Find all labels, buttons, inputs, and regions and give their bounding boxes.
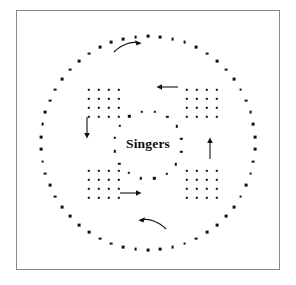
arrow-bottom-curved-left-icon xyxy=(134,216,168,234)
ring-dot xyxy=(249,172,252,175)
ring-dot xyxy=(88,231,91,234)
inner-ring-dot xyxy=(166,116,168,118)
inner-ring-dot xyxy=(180,138,182,140)
inner-ring-dot xyxy=(114,137,116,139)
ring-dot xyxy=(78,60,81,63)
ring-dot xyxy=(245,184,248,187)
block-dot xyxy=(196,89,198,91)
inner-ring-dot xyxy=(154,111,156,113)
inner-ring-dot xyxy=(175,125,177,127)
block-dot xyxy=(108,116,110,118)
inner-ring-dot xyxy=(175,163,177,165)
block-dot xyxy=(108,98,110,100)
block-dot xyxy=(196,98,198,100)
block-dot xyxy=(186,197,188,199)
ring-dot xyxy=(183,242,186,245)
inner-ring-dot xyxy=(141,110,143,112)
block-dot xyxy=(108,179,110,181)
block-dot xyxy=(98,170,100,172)
inner-ring-dot xyxy=(118,162,120,164)
ring-dot xyxy=(249,111,252,114)
block-dot xyxy=(186,170,188,172)
ring-dot xyxy=(44,111,47,114)
ring-dot xyxy=(232,205,235,208)
block-dot xyxy=(118,179,120,181)
ring-dot xyxy=(205,52,208,55)
block-dot xyxy=(186,188,188,190)
arrow-lower-left-right-icon xyxy=(119,188,143,198)
block-dot xyxy=(206,197,208,199)
block-dot xyxy=(98,89,100,91)
block-dot xyxy=(196,170,198,172)
block-dot xyxy=(88,197,90,199)
ring-dot xyxy=(239,195,242,198)
block-dot xyxy=(216,98,218,100)
block-dot xyxy=(118,98,120,100)
block-dot xyxy=(118,170,120,172)
ring-dot xyxy=(48,184,51,187)
block-dot xyxy=(88,89,90,91)
block-dot xyxy=(108,197,110,199)
figure-canvas: Singers xyxy=(0,0,296,285)
ring-dot xyxy=(88,52,91,55)
ring-dot xyxy=(54,195,57,198)
ring-dot xyxy=(253,148,256,151)
inner-ring-dot xyxy=(128,172,130,174)
ring-dot xyxy=(252,160,255,163)
block-dot xyxy=(98,107,100,109)
block-dot xyxy=(88,188,90,190)
ring-dot xyxy=(171,246,174,249)
ring-dot xyxy=(224,215,227,218)
block-dot xyxy=(108,188,110,190)
ring-dot xyxy=(69,215,72,218)
block-dot xyxy=(196,116,198,118)
ring-dot xyxy=(245,99,248,102)
arrow-left-down-icon xyxy=(82,116,92,140)
ring-dot xyxy=(69,68,72,71)
ring-dot xyxy=(232,78,235,81)
block-dot xyxy=(186,107,188,109)
block-dot xyxy=(216,170,218,172)
block-dot xyxy=(186,98,188,100)
block-dot xyxy=(108,170,110,172)
block-dot xyxy=(216,107,218,109)
block-dot xyxy=(186,89,188,91)
ring-dot xyxy=(215,224,218,227)
block-dot xyxy=(206,170,208,172)
inner-ring-dot xyxy=(180,151,182,153)
ring-dot xyxy=(195,237,198,240)
block-dot xyxy=(206,179,208,181)
block-dot xyxy=(206,89,208,91)
block-dot xyxy=(98,188,100,190)
ring-dot xyxy=(99,46,102,49)
ring-dot xyxy=(159,248,162,251)
ring-dot xyxy=(44,172,47,175)
ring-dot xyxy=(99,237,102,240)
arrow-right-up-icon xyxy=(205,136,215,160)
ring-dot xyxy=(171,37,174,40)
inner-ring-dot xyxy=(119,125,121,127)
ring-dot xyxy=(40,135,43,138)
ring-dot xyxy=(122,246,125,249)
ring-dot xyxy=(48,99,51,102)
arrow-top-curved-right-icon xyxy=(112,38,146,56)
block-dot xyxy=(88,98,90,100)
ring-dot xyxy=(78,224,81,227)
block-dot xyxy=(88,179,90,181)
block-dot xyxy=(108,89,110,91)
ring-dot xyxy=(215,60,218,63)
block-dot xyxy=(108,107,110,109)
ring-dot xyxy=(224,68,227,71)
block-dot xyxy=(216,89,218,91)
inner-ring-dot xyxy=(113,150,115,152)
block-dot xyxy=(98,179,100,181)
ring-dot xyxy=(239,88,242,91)
diagram-stage: Singers xyxy=(0,0,296,285)
block-dot xyxy=(186,116,188,118)
block-dot xyxy=(216,116,218,118)
ring-dot xyxy=(195,46,198,49)
inner-ring-dot xyxy=(165,172,167,174)
arrow-upper-right-left-icon xyxy=(155,82,179,92)
block-dot xyxy=(216,179,218,181)
inner-ring-dot xyxy=(153,177,155,179)
